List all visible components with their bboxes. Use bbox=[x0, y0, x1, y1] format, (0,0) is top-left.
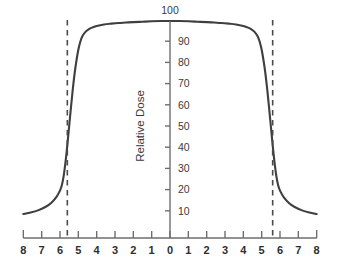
y-axis-tick-label: 90 bbox=[178, 35, 190, 47]
x-axis-tick-label: 7 bbox=[295, 244, 301, 256]
x-axis-tick-label: 1 bbox=[149, 244, 155, 256]
x-axis-tick-label: 1 bbox=[185, 244, 191, 256]
y-axis-tick-label: 10 bbox=[178, 205, 190, 217]
chart-canvas: 102030405060708090 87654321012345678 Rel… bbox=[0, 0, 340, 264]
x-axis-tick-label: 8 bbox=[20, 244, 26, 256]
y-axis-top-label: 100 bbox=[161, 4, 179, 16]
y-axis-tick-label: 20 bbox=[178, 183, 190, 195]
y-axis-tick-label: 50 bbox=[178, 120, 190, 132]
x-axis-tick-label: 8 bbox=[314, 244, 320, 256]
x-axis-tick-label: 6 bbox=[277, 244, 283, 256]
x-axis-tick-label: 2 bbox=[204, 244, 210, 256]
dose-profile-chart: 102030405060708090 87654321012345678 Rel… bbox=[0, 0, 340, 264]
y-axis-title: Relative Dose bbox=[134, 90, 146, 162]
x-axis-tick-label: 5 bbox=[259, 244, 265, 256]
y-axis-tick-label: 70 bbox=[178, 77, 190, 89]
x-axis-tick-label: 4 bbox=[240, 244, 247, 256]
x-axis-tick-label: 0 bbox=[167, 244, 173, 256]
x-axis-tick-label: 3 bbox=[222, 244, 228, 256]
y-axis-tick-label: 60 bbox=[178, 99, 190, 111]
x-axis-tick-label: 7 bbox=[39, 244, 45, 256]
x-axis-tick-label: 2 bbox=[130, 244, 136, 256]
x-axis-tick-label: 5 bbox=[75, 244, 81, 256]
y-axis-tick-label: 40 bbox=[178, 141, 190, 153]
x-axis-tick-label: 3 bbox=[112, 244, 118, 256]
y-axis-tick-label: 80 bbox=[178, 56, 190, 68]
x-axis-tick-label: 4 bbox=[94, 244, 101, 256]
x-axis-tick-label: 6 bbox=[57, 244, 63, 256]
y-axis-tick-label: 30 bbox=[178, 162, 190, 174]
